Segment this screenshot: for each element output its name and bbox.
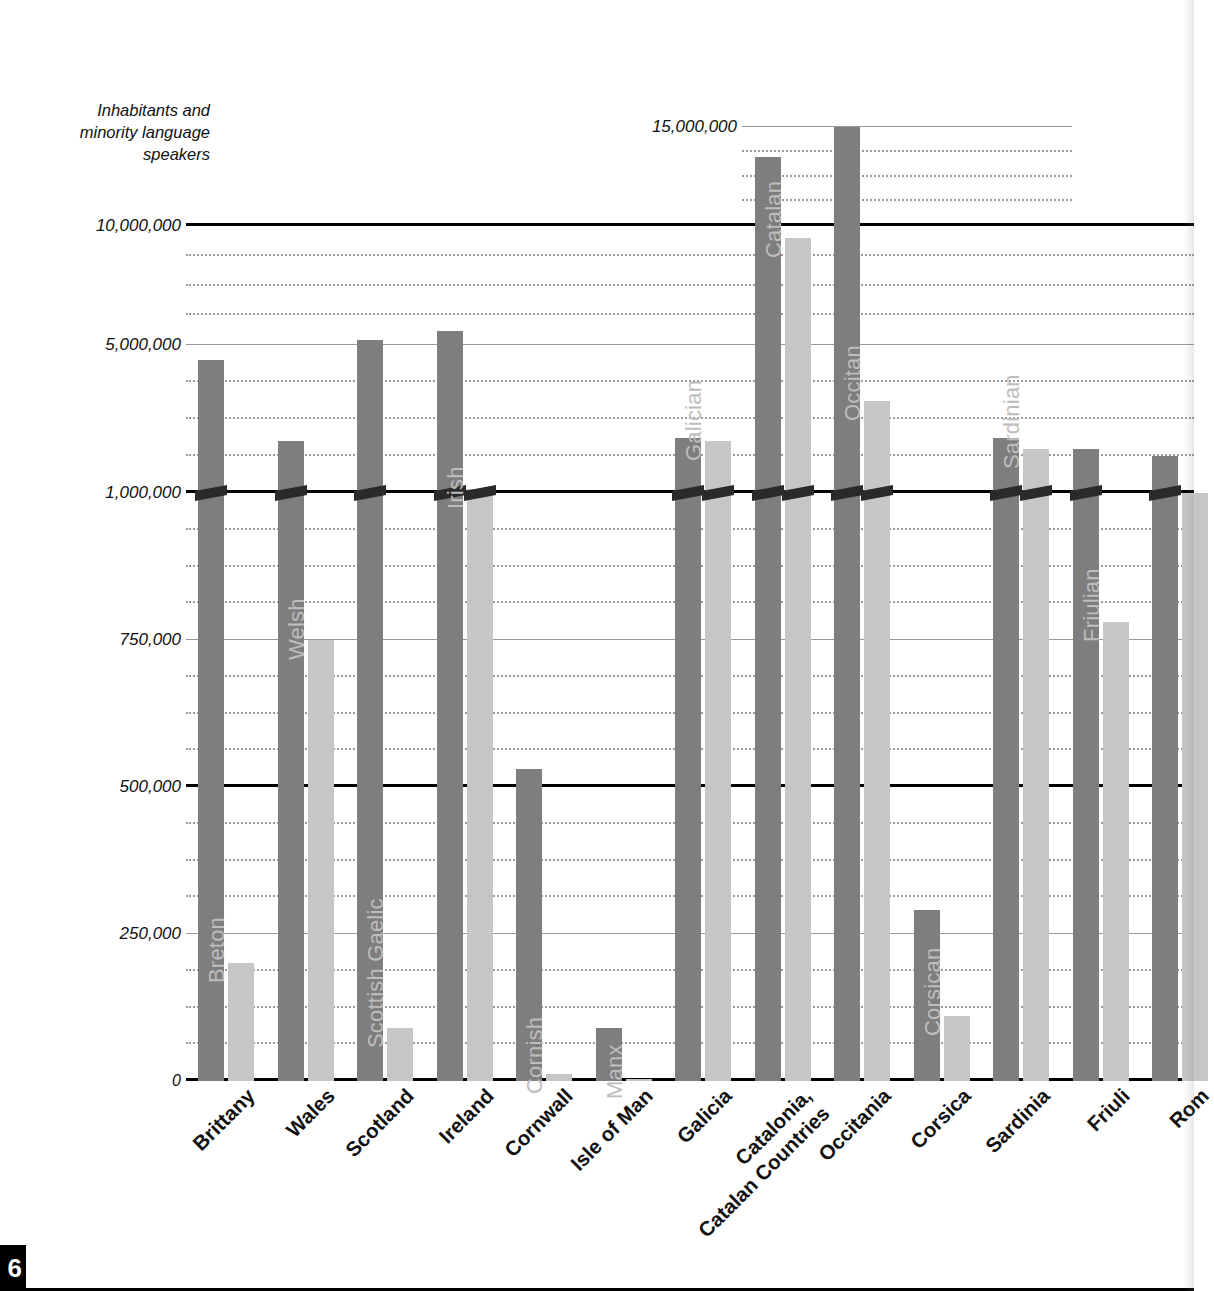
x-axis-label-group: BrittanyWalesScotlandIrelandCornwallIsle… xyxy=(186,1083,1194,1283)
bar-language-speakers xyxy=(308,640,334,1081)
y-axis-title: Inhabitants and minority language speake… xyxy=(10,100,210,165)
bar-language-speakers xyxy=(864,401,890,1082)
bar-language-label: Welsh xyxy=(284,598,310,660)
y-axis-tick-label: 500,000 xyxy=(0,777,181,797)
y-axis-tick-label: 5,000,000 xyxy=(0,335,181,355)
x-axis-category-label: Galicia xyxy=(671,1083,736,1148)
bar-language-speakers xyxy=(705,441,731,1081)
gridline-major xyxy=(186,344,1194,345)
bar-language-label: Breton xyxy=(204,917,230,983)
bar-inhabitants xyxy=(1152,456,1178,1081)
bar-language-speakers xyxy=(1023,449,1049,1081)
gridline-minor xyxy=(186,313,1194,315)
x-axis-category-label: Rom xyxy=(1164,1083,1214,1133)
y-axis-tick-label: 15,000,000 xyxy=(477,117,737,137)
bar-inhabitants xyxy=(278,441,304,1081)
x-axis-category-label: Brittany xyxy=(187,1083,259,1155)
x-axis-category-label: Sardinia xyxy=(980,1083,1055,1158)
x-axis-category-label: Isle of Man xyxy=(565,1083,658,1176)
bar-language-speakers xyxy=(387,1028,413,1081)
bar-language-label: Corsican xyxy=(920,948,946,1036)
bar-inhabitants xyxy=(993,438,1019,1082)
page-number: 6 xyxy=(0,1245,26,1291)
bar-inhabitants xyxy=(834,127,860,1081)
x-axis-category-label: Friuli xyxy=(1081,1083,1134,1136)
y-axis-tick-label: 750,000 xyxy=(0,630,181,650)
y-axis-tick-label: 0 xyxy=(0,1072,181,1090)
bar-language-label: Friulian xyxy=(1079,569,1105,643)
bar-language-label: Catalan xyxy=(761,181,787,258)
gridline-minor xyxy=(186,284,1194,286)
gridline-major xyxy=(742,126,1072,127)
bar-language-speakers xyxy=(228,963,254,1081)
y-axis-tick-label: 250,000 xyxy=(0,924,181,944)
bar-language-speakers xyxy=(467,489,493,1081)
x-axis-category-label: Wales xyxy=(280,1083,339,1142)
x-axis-category-label: Ireland xyxy=(433,1083,498,1148)
bar-language-speakers xyxy=(1103,622,1129,1081)
bar-language-speakers xyxy=(626,1079,652,1081)
bar-language-speakers xyxy=(1182,493,1208,1081)
y-axis-tick-label: 1,000,000 xyxy=(0,483,181,503)
gridline-minor xyxy=(186,254,1194,256)
bar-language-label: Irish xyxy=(443,467,469,510)
bar-inhabitants xyxy=(675,438,701,1082)
bar-language-label: Occitan xyxy=(840,345,866,421)
gridline-minor xyxy=(742,150,1072,152)
x-axis-category-label: Cornwall xyxy=(499,1083,578,1162)
bar-language-label: Scottish Gaelic xyxy=(363,898,389,1048)
chart-plot-area: 0250,000500,000750,0001,000,0005,000,000… xyxy=(186,120,1194,1081)
bar-language-speakers xyxy=(785,238,811,1081)
gridline-major xyxy=(186,223,1194,226)
bar-language-label: Sardinian xyxy=(999,374,1025,469)
bar-language-speakers xyxy=(944,1016,970,1081)
y-axis-tick-label: 10,000,000 xyxy=(0,216,181,236)
x-axis-category-label: Scotland xyxy=(340,1083,419,1162)
bar-inhabitants xyxy=(755,157,781,1081)
bar-language-label: Galician xyxy=(681,380,707,461)
x-axis-category-label: Corsica xyxy=(904,1083,975,1154)
bar-inhabitants xyxy=(1073,449,1099,1081)
gridline-minor xyxy=(742,199,1072,201)
gridline-minor xyxy=(742,175,1072,177)
bar-inhabitants xyxy=(437,331,463,1081)
bar-language-speakers xyxy=(546,1074,572,1081)
